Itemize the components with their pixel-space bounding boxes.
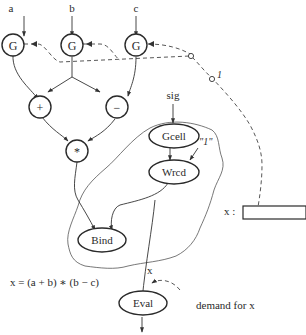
input-b-label: b bbox=[69, 2, 75, 14]
dash-arrowhead-gb bbox=[86, 41, 92, 47]
dash-arrowhead-ga bbox=[31, 41, 37, 47]
node-plus-label: + bbox=[37, 101, 44, 115]
node-g-c: G bbox=[125, 34, 147, 56]
edge-gb-minus bbox=[72, 77, 100, 92]
node-g-a-label: G bbox=[9, 39, 18, 53]
x-storage-box bbox=[243, 206, 306, 219]
quoted-one-label: "1" bbox=[199, 136, 213, 147]
edge-ga-plus bbox=[13, 55, 38, 99]
edge-one-wrcd bbox=[190, 148, 198, 160]
node-minus-label: − bbox=[114, 101, 121, 115]
node-g-c-label: G bbox=[132, 39, 141, 53]
edge-gc-minus bbox=[128, 57, 136, 96]
node-gcell: Gcell bbox=[149, 124, 199, 148]
input-c-label: c bbox=[134, 2, 139, 14]
edge-wrcd-eval bbox=[142, 200, 155, 300]
dashed-path-storage bbox=[192, 57, 262, 207]
one-label: 1 bbox=[217, 69, 222, 80]
node-g-a: G bbox=[2, 34, 24, 56]
node-wrcd: Wrcd bbox=[149, 160, 199, 184]
tap-point-2 bbox=[209, 76, 214, 81]
node-gcell-label: Gcell bbox=[162, 130, 186, 142]
input-sig-label: sig bbox=[167, 89, 180, 101]
input-a-label: a bbox=[9, 2, 14, 14]
node-wrcd-label: Wrcd bbox=[162, 166, 186, 178]
dashed-path-to-gc bbox=[148, 44, 190, 54]
node-g-b-label: G bbox=[68, 39, 77, 53]
edge-minus-times bbox=[88, 119, 115, 141]
node-bind: Bind bbox=[78, 228, 126, 252]
node-minus: − bbox=[106, 96, 128, 118]
dash-arrowhead-gc bbox=[148, 41, 154, 47]
node-eval: Eval bbox=[119, 291, 167, 315]
formula-label: x = (a + b) ∗ (b − c) bbox=[10, 276, 99, 289]
x-edge-label: x bbox=[147, 264, 153, 276]
dashed-path-to-gb bbox=[84, 44, 120, 60]
edge-times-bind bbox=[74, 162, 95, 230]
node-plus: + bbox=[29, 96, 51, 118]
node-eval-label: Eval bbox=[133, 297, 153, 309]
dashed-demand-arrow bbox=[152, 280, 180, 290]
node-times-label: * bbox=[74, 145, 80, 159]
tap-point-1 bbox=[188, 53, 193, 58]
node-times: * bbox=[66, 140, 88, 162]
edge-wrcd-bind bbox=[111, 183, 168, 230]
demand-label: demand for x bbox=[196, 299, 255, 311]
dataflow-diagram: G G G + − * Gcell Wrcd Bind Eval a b c s… bbox=[0, 0, 306, 335]
node-bind-label: Bind bbox=[91, 234, 113, 246]
x-storage-label: x : bbox=[224, 205, 235, 217]
node-g-b: G bbox=[61, 34, 83, 56]
edge-plus-times bbox=[42, 117, 68, 141]
